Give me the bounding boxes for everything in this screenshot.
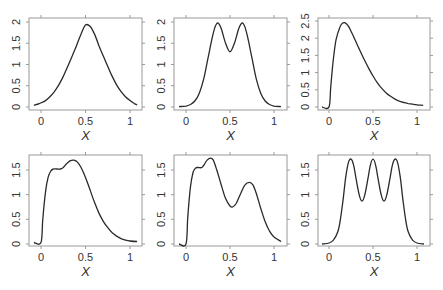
- x-tick-label: 0.5: [222, 251, 237, 263]
- x-tick-label: 1: [127, 115, 133, 127]
- x-tick-label: 1: [271, 251, 277, 263]
- x-tick-label: 0.5: [365, 251, 380, 263]
- x-tick-label: 1: [414, 251, 420, 263]
- y-tick-label: 0.5: [299, 212, 311, 227]
- y-tick-label: 0.5: [299, 82, 311, 97]
- x-axis-label: X: [369, 128, 380, 143]
- y-tick-label: 0: [155, 104, 167, 110]
- y-tick-label: 1: [10, 192, 22, 198]
- y-tick-label: 0: [299, 104, 311, 110]
- density-curve: [322, 159, 424, 244]
- density-curve: [179, 23, 281, 107]
- x-tick-label: 0.5: [365, 115, 380, 127]
- x-axis-label: X: [80, 264, 91, 279]
- x-axis-label: X: [225, 264, 236, 279]
- y-tick-label: 1.5: [155, 162, 167, 177]
- plot-frame: [318, 18, 430, 110]
- y-tick-label: 1.5: [299, 48, 311, 63]
- y-tick-label: 1.5: [10, 36, 22, 51]
- y-tick-label: 0.5: [155, 212, 167, 227]
- panel-top-middle: 00.5100.511.52X: [155, 15, 290, 143]
- x-axis-label: X: [225, 128, 236, 143]
- density-curve: [34, 24, 137, 105]
- panel-bottom-right: 00.5100.511.5X: [299, 152, 433, 279]
- y-tick-label: 0: [10, 104, 22, 110]
- x-tick-label: 0: [38, 115, 44, 127]
- x-tick-label: 1: [127, 251, 133, 263]
- y-tick-label: 0: [299, 241, 311, 247]
- x-tick-label: 0: [183, 115, 189, 127]
- x-tick-label: 0.5: [78, 251, 93, 263]
- panel-bottom-left: 00.5100.511.5X: [10, 152, 145, 279]
- y-tick-label: 1: [299, 70, 311, 76]
- x-tick-label: 1: [271, 115, 277, 127]
- x-tick-label: 0: [326, 115, 332, 127]
- y-tick-label: 2: [155, 19, 167, 25]
- panel-top-left: 00.5100.511.52X: [10, 15, 145, 143]
- y-tick-label: 1.5: [299, 162, 311, 177]
- panel-top-right: 00.5100.511.522.5X: [299, 13, 433, 143]
- y-tick-label: 1.5: [155, 36, 167, 51]
- x-axis-label: X: [80, 128, 91, 143]
- plot-frame: [29, 155, 142, 246]
- density-curve: [34, 160, 137, 244]
- y-tick-label: 1: [299, 192, 311, 198]
- y-tick-label: 0.5: [10, 212, 22, 227]
- x-tick-label: 0: [326, 251, 332, 263]
- y-tick-label: 1: [10, 61, 22, 67]
- plot-frame: [174, 18, 287, 110]
- x-tick-label: 1: [414, 115, 420, 127]
- y-tick-label: 0.5: [10, 78, 22, 93]
- x-tick-label: 0.5: [78, 115, 93, 127]
- density-curve: [322, 23, 423, 109]
- y-tick-label: 1: [155, 61, 167, 67]
- x-tick-label: 0: [38, 251, 44, 263]
- panel-bottom-middle: 00.5100.511.5X: [155, 152, 290, 279]
- y-tick-label: 1.5: [10, 162, 22, 177]
- y-tick-label: 2: [10, 19, 22, 25]
- y-tick-label: 0.5: [155, 78, 167, 93]
- figure-grid: 00.5100.511.52X00.5100.511.52X00.5100.51…: [0, 0, 443, 290]
- plot-frame: [318, 155, 430, 246]
- y-tick-label: 2.5: [299, 13, 311, 28]
- y-tick-label: 0: [155, 241, 167, 247]
- x-axis-label: X: [369, 264, 380, 279]
- y-tick-label: 0: [10, 241, 22, 247]
- y-tick-label: 2: [299, 35, 311, 41]
- x-tick-label: 0: [183, 251, 189, 263]
- density-curve: [179, 158, 281, 246]
- x-tick-label: 0.5: [222, 115, 237, 127]
- y-tick-label: 1: [155, 192, 167, 198]
